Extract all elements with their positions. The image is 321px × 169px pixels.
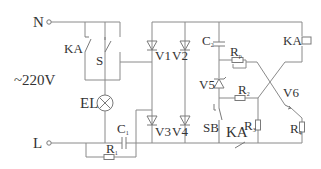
switch-s: S [96, 37, 111, 68]
lamp-el: EL [80, 95, 113, 111]
diode-v4: V4 [172, 116, 190, 139]
capacitor-c1-label: C1 [117, 121, 129, 136]
terminal-n: N [33, 14, 51, 30]
relay-coil-ka: KA [283, 33, 311, 48]
diode-v4-label: V4 [172, 124, 188, 139]
zener-diode-v5-label: V5 [199, 77, 215, 92]
push-button-sb-label: SB [203, 120, 219, 135]
capacitor-c2-label: C2 [202, 33, 214, 48]
relay-coil-ka-label: KA [283, 33, 302, 48]
supply-voltage-label: ~220V [14, 72, 56, 88]
ka-contact-bottom: KA [226, 124, 248, 148]
circuit-diagram: N L ~220V KA S EL R1 C1 [0, 0, 321, 169]
diode-v1-label: V1 [155, 48, 171, 63]
potentiometer-rp: Rp [230, 44, 243, 63]
diode-v3: V3 [147, 116, 171, 139]
resistor-r2-label: R2 [238, 82, 250, 97]
terminal-l: L [33, 135, 51, 151]
terminal-l-label: L [33, 135, 42, 151]
diode-v3-label: V3 [155, 124, 171, 139]
ka-contact-label: KA [64, 41, 83, 56]
ka-contact-bottom-label: KA [226, 124, 248, 140]
diode-v2-label: V2 [172, 48, 188, 63]
ka-contact: KA [64, 37, 91, 56]
transistor-v6: V6 [283, 85, 299, 109]
push-button-sb: SB [203, 104, 222, 143]
lamp-el-label: EL [80, 95, 98, 111]
potentiometer-rp-label: Rp [230, 44, 242, 59]
zener-diode-v5: V5 [199, 77, 226, 92]
capacitor-c1: C1 [117, 121, 129, 149]
capacitor-c2: C2 [202, 33, 225, 48]
transistor-v6-label: V6 [283, 85, 299, 100]
switch-s-label: S [96, 53, 103, 68]
terminal-n-label: N [33, 14, 44, 30]
diode-v2: V2 [172, 41, 190, 63]
diode-v1: V1 [147, 41, 171, 63]
